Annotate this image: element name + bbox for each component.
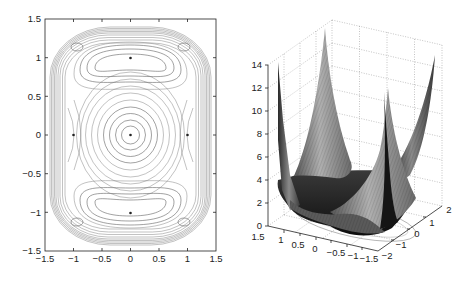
contour-x-tick-labels: −1.5 −1 −0.5 0 0.5 1 1.5 — [36, 253, 223, 264]
critical-point-origin — [129, 134, 132, 137]
x-tick-label: −1 — [348, 250, 359, 261]
contour-bottom-crescents — [74, 181, 187, 228]
surface-plot: 14 12 10 8 6 4 2 0 1.5 1 0.5 0 −0.5 −1 −… — [251, 20, 451, 264]
contour-plot: 1.5 1 0.5 0 −0.5 −1 −1.5 −1.5 −1 −0.5 0 … — [22, 13, 222, 264]
figure: 1.5 1 0.5 0 −0.5 −1 −1.5 −1.5 −1 −0.5 0 … — [0, 0, 472, 284]
critical-point-top — [129, 57, 132, 60]
z-tick-label: 0 — [257, 220, 262, 231]
y-tick-label: 0.5 — [28, 91, 41, 102]
y-tick-label: 0 — [36, 129, 41, 140]
surface-z-tick-labels: 14 12 10 8 6 4 2 0 — [251, 59, 262, 231]
y-tick-label: −0.5 — [22, 168, 41, 179]
x-tick-label: −0.5 — [327, 247, 346, 258]
y-tick-label: 1 — [429, 217, 434, 228]
surface-mesh — [278, 28, 435, 235]
z-tick-label: 4 — [257, 174, 262, 185]
y-tick-label: −1 — [30, 207, 41, 218]
x-tick-label: −1.5 — [36, 253, 55, 264]
x-tick-label: 0.5 — [152, 253, 165, 264]
y-tick-label: 0 — [414, 228, 419, 239]
z-tick-label: 6 — [257, 151, 262, 162]
x-tick-label: −0.5 — [93, 253, 112, 264]
x-tick-label: 1 — [278, 234, 283, 245]
y-tick-label: −1 — [396, 239, 407, 250]
contour-y-tick-labels: 1.5 1 0.5 0 −0.5 −1 −1.5 — [22, 13, 41, 256]
y-tick-label: 1.5 — [28, 13, 41, 24]
y-tick-label: 2 — [446, 204, 451, 215]
x-tick-label: −1 — [68, 253, 79, 264]
x-tick-label: 0.5 — [291, 239, 304, 250]
surface-x-tick-labels: 1.5 1 0.5 0 −0.5 −1 −1.5 — [251, 231, 378, 264]
y-tick-label: −2 — [382, 250, 393, 261]
critical-point-bottom — [129, 212, 132, 215]
x-tick-label: 1.5 — [251, 231, 264, 242]
x-tick-label: 1 — [185, 253, 190, 264]
surface-z-axis — [265, 65, 268, 226]
x-tick-label: 1.5 — [209, 253, 222, 264]
z-tick-label: 14 — [251, 59, 262, 70]
critical-point-left — [72, 134, 75, 137]
x-tick-label: 0 — [128, 253, 133, 264]
x-tick-label: −1.5 — [360, 253, 379, 264]
critical-points — [72, 57, 189, 215]
z-tick-label: 8 — [257, 128, 262, 139]
y-tick-label: 1 — [36, 52, 41, 63]
z-tick-label: 12 — [251, 82, 262, 93]
contour-top-crescents — [74, 42, 187, 89]
z-tick-label: 2 — [257, 197, 262, 208]
x-tick-label: 0 — [312, 243, 317, 254]
critical-point-right — [186, 134, 189, 137]
z-tick-label: 10 — [251, 105, 262, 116]
